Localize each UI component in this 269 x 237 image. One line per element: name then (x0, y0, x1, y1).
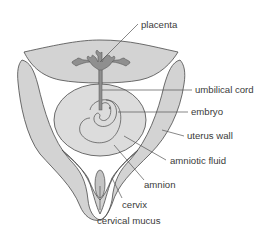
label-cervix: cervix (122, 199, 147, 210)
label-embryo: embryo (191, 106, 223, 117)
label-amniotic-fluid: amniotic fluid (170, 155, 226, 166)
label-placenta: placenta (141, 19, 178, 30)
umbilical-cord (99, 70, 102, 110)
label-uterus-wall: uterus wall (187, 130, 233, 141)
label-amnion: amnion (144, 179, 175, 190)
label-cervical-mucus: cervical mucus (97, 215, 161, 226)
embryo-eye (109, 107, 111, 109)
label-umbilical-cord: umbilical cord (195, 84, 254, 95)
uterus-embryo-diagram: placenta umbilical cord embryo uterus wa… (0, 0, 269, 237)
